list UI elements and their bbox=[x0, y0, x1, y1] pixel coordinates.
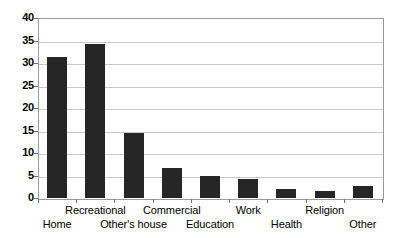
y-tick-label: 15 bbox=[0, 125, 34, 136]
bar-chart: 0510152025303540 HomeRecreationalOther's… bbox=[0, 0, 400, 238]
y-tick-label: 35 bbox=[0, 35, 34, 46]
y-tick-label: 30 bbox=[0, 57, 34, 68]
bar bbox=[315, 191, 335, 198]
bar bbox=[353, 186, 373, 198]
bars-group bbox=[38, 18, 382, 198]
bar bbox=[47, 57, 67, 198]
x-axis-label: Other bbox=[313, 218, 400, 230]
x-axis-labels: HomeRecreationalOther's houseCommercialE… bbox=[0, 198, 400, 238]
y-tick-label: 25 bbox=[0, 80, 34, 91]
y-tick-label: 5 bbox=[0, 170, 34, 181]
bar bbox=[276, 189, 296, 198]
y-tick-label: 20 bbox=[0, 102, 34, 113]
bar bbox=[200, 176, 220, 198]
y-tick-label: 10 bbox=[0, 147, 34, 158]
bar bbox=[238, 179, 258, 198]
bar bbox=[124, 133, 144, 198]
bar bbox=[162, 168, 182, 198]
x-axis-label: Religion bbox=[275, 204, 375, 216]
y-tick-label: 40 bbox=[0, 12, 34, 23]
bar bbox=[85, 44, 105, 198]
